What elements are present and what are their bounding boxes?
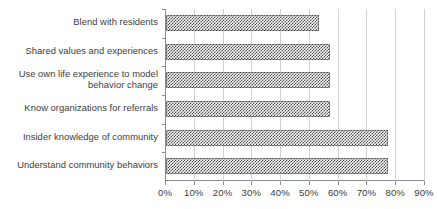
bar-blend-with-residents[interactable] <box>166 15 319 31</box>
bar-row <box>165 152 424 181</box>
gridline-90 <box>424 9 425 181</box>
bar-insider-knowledge-of-community[interactable] <box>166 130 388 146</box>
category-label-use-own-life-experience-to-model-behavior-change: Use own life experience to model behavio… <box>0 68 158 91</box>
y-tick <box>162 95 165 96</box>
bar-chart: Blend with residents Shared values and e… <box>0 0 437 209</box>
bar-row <box>165 66 424 95</box>
category-label-know-organizations-for-referrals: Know organizations for referrals <box>0 102 158 113</box>
bar-shared-values-and-experiences[interactable] <box>166 44 330 60</box>
y-tick <box>162 38 165 39</box>
x-tick-50 <box>309 181 310 185</box>
x-tick-60 <box>338 181 339 185</box>
bar-row <box>165 38 424 67</box>
bar-use-own-life-experience-to-model-behavior-change[interactable] <box>166 72 330 88</box>
x-tick-70 <box>366 181 367 185</box>
y-tick <box>162 152 165 153</box>
category-label-insider-knowledge-of-community: Insider knowledge of community <box>0 131 158 142</box>
bar-understand-community-behaviors[interactable] <box>166 158 388 174</box>
x-tick-0 <box>165 181 166 185</box>
category-label-blend-with-residents: Blend with residents <box>0 16 158 27</box>
x-tick-label-90: 90% <box>404 187 437 199</box>
bar-row <box>165 9 424 38</box>
x-tick-10 <box>194 181 195 185</box>
x-tick-20 <box>223 181 224 185</box>
bar-know-organizations-for-referrals[interactable] <box>166 101 330 117</box>
y-tick <box>162 9 165 10</box>
y-tick <box>162 124 165 125</box>
x-tick-30 <box>251 181 252 185</box>
x-tick-40 <box>280 181 281 185</box>
y-tick <box>162 66 165 67</box>
bar-row <box>165 95 424 124</box>
x-tick-80 <box>395 181 396 185</box>
category-label-shared-values-and-experiences: Shared values and experiences <box>0 45 158 56</box>
category-label-understand-community-behaviors: Understand community behaviors <box>0 159 158 170</box>
bar-row <box>165 124 424 153</box>
plot-area <box>165 9 424 181</box>
x-tick-90 <box>424 181 425 185</box>
